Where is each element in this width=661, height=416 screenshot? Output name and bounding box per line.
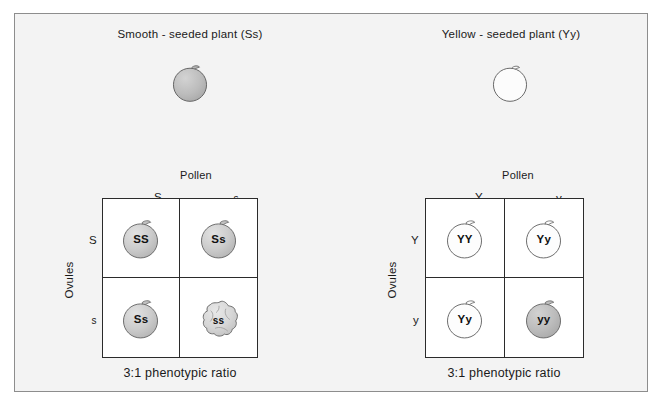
ratio-label-yellow: 3:1 phenotypic ratio: [447, 366, 560, 380]
ovule-allele-yellow-1: y: [413, 314, 419, 326]
pea-seed-smooth-icon: YY: [443, 216, 487, 260]
punnett-cell-yellow-Yy-1: Yy: [505, 199, 584, 278]
parent-pea-smooth: [170, 62, 210, 103]
parent-pea-yellow: [490, 62, 530, 103]
ovules-label-smooth: Ovules: [63, 262, 75, 299]
ovule-allele-yellow-0: Y: [411, 234, 419, 246]
pea-seed-smooth-icon: Yy: [443, 296, 487, 340]
ovule-allele-smooth-0: S: [89, 234, 97, 246]
punnett-cell-smooth-SS: SS: [103, 199, 180, 278]
ovule-allele-smooth-1: s: [91, 315, 96, 326]
punnett-cell-smooth-Ss-2: Ss: [103, 278, 180, 357]
punnett-grid-yellow: YY Yy: [425, 198, 584, 358]
ovules-label-yellow: Ovules: [386, 262, 398, 299]
punnett-cell-yellow-Yy-2: Yy: [426, 278, 505, 357]
ratio-label-smooth: 3:1 phenotypic ratio: [123, 366, 236, 380]
pea-seed-smooth-icon: Yy: [522, 216, 566, 260]
punnett-cell-yellow-yy: yy: [505, 278, 584, 357]
pea-seed-smooth-icon: Ss: [119, 296, 163, 340]
punnett-cell-smooth-Ss-1: Ss: [180, 199, 257, 278]
pollen-label-smooth: Pollen: [180, 169, 212, 181]
pea-seed-smooth-icon: SS: [119, 216, 163, 260]
pollen-label-yellow: Pollen: [502, 169, 534, 181]
pea-seed-smooth-icon: yy: [522, 296, 566, 340]
punnett-cell-yellow-YY: YY: [426, 199, 505, 278]
pea-seed-smooth-icon: Ss: [197, 216, 241, 260]
punnett-square-figure: Smooth - seeded plant (Ss) Pollen S: [0, 0, 661, 416]
pea-seed-wrinkled-icon: ss: [197, 296, 241, 340]
punnett-grid-smooth: SS: [102, 198, 258, 358]
plant-title-yellow: Yellow - seeded plant (Yy): [442, 28, 580, 40]
plant-title-smooth: Smooth - seeded plant (Ss): [117, 28, 262, 40]
figure-panel: Smooth - seeded plant (Ss) Pollen S: [14, 13, 648, 392]
punnett-cell-smooth-ss: ss: [180, 278, 257, 357]
